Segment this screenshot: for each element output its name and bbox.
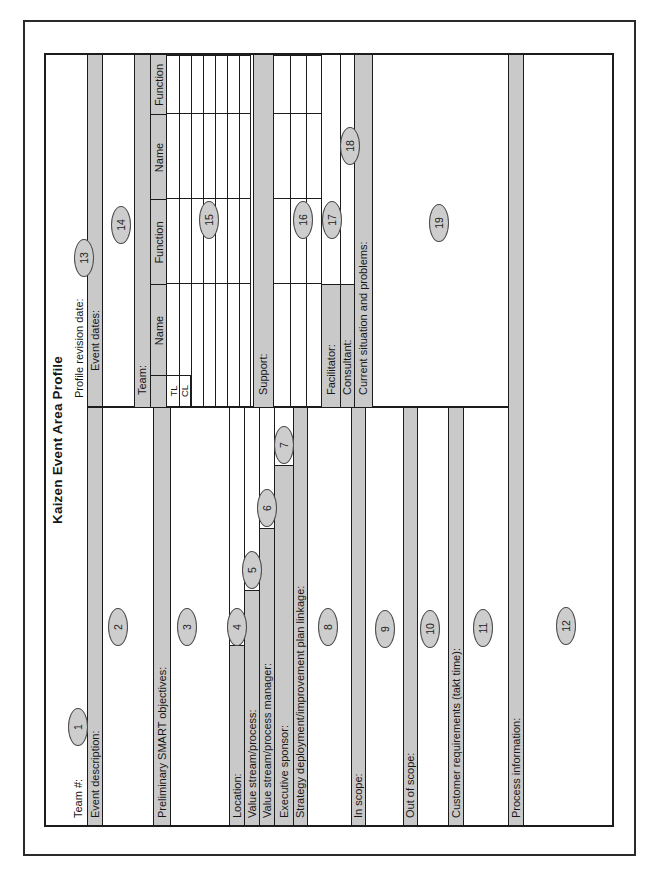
location-label: Location: xyxy=(232,773,243,825)
process-information-band: Process information: xyxy=(508,55,524,825)
support-band: Support: xyxy=(253,55,274,407)
team-row-line xyxy=(179,56,180,406)
team-row-line xyxy=(191,56,192,406)
team-col-line xyxy=(167,283,250,284)
facilitator-label-cell: Facilitator: xyxy=(322,284,340,407)
value-stream-manager-label-cell: Value stream/process manager: xyxy=(260,528,274,825)
out-of-scope-band: Out of scope: xyxy=(403,408,418,825)
strategy-linkage-band: Strategy deployment/improvement plan lin… xyxy=(293,408,308,825)
callout-12: 12 xyxy=(556,607,576,645)
in-scope-band: In scope: xyxy=(351,408,366,825)
callout-14: 14 xyxy=(111,206,131,244)
team-name2-header: Name xyxy=(151,115,166,200)
callout-18: 18 xyxy=(340,127,360,165)
customer-requirements-label: Customer requirements (takt time): xyxy=(451,648,462,825)
callout-11: 11 xyxy=(473,609,493,647)
strategy-linkage-label: Strategy deployment/improvement plan lin… xyxy=(295,586,306,825)
callout-15: 15 xyxy=(199,201,219,239)
callout-17: 17 xyxy=(322,201,342,239)
callout-6: 6 xyxy=(257,489,277,527)
executive-sponsor-label: Executive sponsor: xyxy=(279,725,290,825)
callout-9: 9 xyxy=(375,610,395,648)
team-col-line xyxy=(167,113,250,114)
support-label: Support: xyxy=(258,353,269,407)
callout-10: 10 xyxy=(420,610,440,648)
executive-sponsor-label-cell: Executive sponsor: xyxy=(275,465,293,825)
callout-1: 1 xyxy=(68,708,88,746)
team-function1-header: Function xyxy=(151,200,166,285)
facilitator-label: Facilitator: xyxy=(326,344,337,407)
team-number-label: Team #: xyxy=(73,779,84,818)
consultant-label: Consultant: xyxy=(342,339,353,407)
consultant-label-cell: Consultant: xyxy=(341,284,354,407)
team-col-line xyxy=(167,198,250,199)
location-label-cell: Location: xyxy=(230,645,244,825)
kaizen-event-area-profile-form: Kaizen Event Area Profile Team #: Profil… xyxy=(44,53,614,827)
profile-revision-date-label: Profile revision date: xyxy=(74,298,85,398)
team-band: Team: xyxy=(134,55,151,407)
team-table-header: Name Function Name Function xyxy=(151,55,167,407)
customer-requirements-band: Customer requirements (takt time): xyxy=(448,408,464,825)
value-stream-manager-label: Value stream/process manager: xyxy=(262,663,273,825)
smart-objectives-band: Preliminary SMART objectives: xyxy=(153,408,171,825)
team-function2-header: Function xyxy=(151,55,166,115)
value-stream-label-cell: Value stream/process: xyxy=(245,590,259,825)
callout-16: 16 xyxy=(293,201,313,239)
team-row-line xyxy=(239,56,240,406)
team-leader-cell: TL xyxy=(167,375,179,406)
in-scope-label: In scope: xyxy=(353,773,364,825)
callout-7: 7 xyxy=(274,426,294,464)
support-col-line xyxy=(274,198,321,199)
book-page: { "form": { "title": "Kaizen Event Area … xyxy=(0,0,650,872)
event-description-event-dates-band: Event description: Event dates: xyxy=(87,55,103,825)
event-description-label: Event description: xyxy=(90,731,101,825)
process-information-label: Process information: xyxy=(511,718,522,825)
support-row-line xyxy=(290,56,291,406)
callout-2: 2 xyxy=(108,608,128,646)
support-col-line xyxy=(274,283,321,284)
callout-3: 3 xyxy=(177,608,197,646)
value-stream-manager-row: Value stream/process manager: xyxy=(259,408,274,825)
form-title: Kaizen Event Area Profile xyxy=(50,55,65,825)
team-label: Team: xyxy=(137,365,148,407)
event-dates-label: Event dates: xyxy=(90,310,101,378)
smart-objectives-label: Preliminary SMART objectives: xyxy=(157,667,168,825)
callout-5: 5 xyxy=(242,551,262,589)
co-leader-cell: CL xyxy=(179,375,191,406)
current-situation-band: Current situation and problems: xyxy=(354,55,373,407)
team-name1-header: Name xyxy=(151,285,166,376)
consultant-row: Consultant: xyxy=(340,55,354,407)
value-stream-label: Value stream/process: xyxy=(247,709,258,825)
callout-19: 19 xyxy=(429,204,449,242)
callout-13: 13 xyxy=(74,239,94,277)
out-of-scope-label: Out of scope: xyxy=(405,753,416,825)
callout-8: 8 xyxy=(318,608,338,646)
value-stream-row: Value stream/process: xyxy=(244,408,259,825)
callout-4: 4 xyxy=(227,608,247,646)
current-situation-label: Current situation and problems: xyxy=(358,242,369,407)
team-row-line xyxy=(227,56,228,406)
support-col-line xyxy=(274,113,321,114)
executive-sponsor-row: Executive sponsor: xyxy=(274,408,293,825)
